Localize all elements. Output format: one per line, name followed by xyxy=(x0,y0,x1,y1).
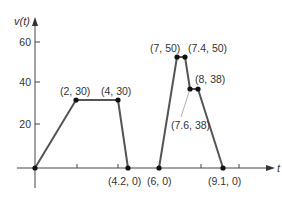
y-axis-title: v(t) xyxy=(14,15,30,27)
label-6-0: (6, 0) xyxy=(147,175,172,187)
label-8-38: (8, 38) xyxy=(195,73,225,85)
label-2-30: (2, 30) xyxy=(60,85,90,97)
y-ticks xyxy=(35,42,40,124)
y-tick-20: 20 xyxy=(19,118,31,130)
annotation-leader-line xyxy=(181,92,189,117)
label-7-6-38: (7.6, 38) xyxy=(171,119,210,131)
label-7-50: (7, 50) xyxy=(150,42,180,54)
y-tick-60: 60 xyxy=(19,36,31,48)
label-9-1-0: (9.1, 0) xyxy=(208,175,241,187)
x-axis-arrow-icon xyxy=(266,165,275,171)
series-1-line xyxy=(35,100,128,168)
y-axis-arrow-icon xyxy=(32,17,38,26)
y-tick-40: 40 xyxy=(19,76,31,88)
label-4-2-0: (4.2, 0) xyxy=(108,175,141,187)
axes xyxy=(17,22,270,188)
label-7-4-50: (7.4, 50) xyxy=(188,42,227,54)
label-4-30: (4, 30) xyxy=(101,85,131,97)
x-axis-title: t xyxy=(277,162,281,174)
data-points xyxy=(32,54,225,170)
velocity-time-chart: 60 40 20 v(t) t (2, 30) (4, 30) (4.2, 0)… xyxy=(0,0,282,198)
